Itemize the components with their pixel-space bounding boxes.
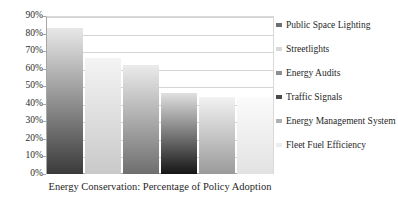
bar[interactable]: [47, 28, 82, 174]
legend-item-label: Energy Audits: [286, 68, 340, 79]
legend-item[interactable]: Energy Audits: [276, 68, 398, 79]
y-axis-tick-label: 40%: [3, 99, 43, 109]
legend-item[interactable]: Energy Management System: [276, 116, 398, 127]
legend-item-label: Public Space Lighting: [286, 20, 370, 31]
legend-swatch-icon: [276, 143, 282, 147]
y-axis-tick-label: 90%: [3, 11, 43, 21]
legend-item[interactable]: Fleet Fuel Efficiency: [276, 140, 398, 151]
x-axis-title: Energy Conservation: Percentage of Polic…: [40, 180, 280, 193]
y-axis-tick-label: 20%: [3, 134, 43, 144]
legend-item-label: Fleet Fuel Efficiency: [286, 140, 366, 151]
bar[interactable]: [161, 93, 196, 174]
legend: Public Space LightingStreetlightsEnergy …: [276, 20, 398, 164]
y-axis-tick-label: 10%: [3, 152, 43, 162]
bars-layer: [46, 16, 274, 174]
legend-swatch-icon: [276, 23, 282, 27]
y-axis-tick-label: 70%: [3, 46, 43, 56]
legend-swatch-icon: [276, 95, 282, 99]
bar[interactable]: [199, 97, 234, 174]
y-axis-tick-label: 80%: [3, 29, 43, 39]
legend-item[interactable]: Public Space Lighting: [276, 20, 398, 31]
y-axis-tick-label: 50%: [3, 81, 43, 91]
y-axis-tick-label: 60%: [3, 64, 43, 74]
bar-chart: 0%10%20%30%40%50%60%70%80%90% Energy Con…: [0, 0, 398, 220]
legend-swatch-icon: [276, 71, 282, 75]
y-axis-tick-mark: [43, 174, 46, 175]
y-axis: 0%10%20%30%40%50%60%70%80%90%: [0, 16, 43, 174]
legend-item-label: Traffic Signals: [286, 92, 342, 103]
y-axis-tick-label: 30%: [3, 117, 43, 127]
legend-item-label: Streetlights: [286, 44, 329, 55]
legend-item[interactable]: Traffic Signals: [276, 92, 398, 103]
y-axis-tick-label: 0%: [3, 169, 43, 179]
legend-item[interactable]: Streetlights: [276, 44, 398, 55]
bar[interactable]: [123, 65, 158, 174]
legend-swatch-icon: [276, 47, 282, 51]
legend-swatch-icon: [276, 119, 282, 123]
bar[interactable]: [85, 58, 120, 174]
bar[interactable]: [237, 97, 272, 174]
legend-item-label: Energy Management System: [286, 116, 396, 127]
